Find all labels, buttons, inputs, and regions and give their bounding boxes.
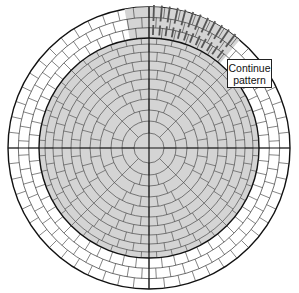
callout-line-2: pattern xyxy=(228,74,271,86)
continue-pattern-callout: Continue pattern xyxy=(227,59,272,88)
pattern-mark xyxy=(159,26,160,36)
callout-line-1: Continue xyxy=(228,62,271,74)
circular-paver-diagram xyxy=(0,0,299,293)
pattern-mark xyxy=(153,5,154,21)
